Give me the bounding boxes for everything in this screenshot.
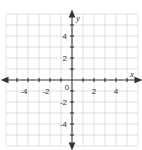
x-tick-label: 2 [92,87,97,96]
y-tick-label: 2 [63,54,68,63]
x-tick-label: 4 [114,87,119,96]
y-axis-label: y [75,13,80,23]
x-tick-label: -2 [42,87,50,96]
y-tick-label: -4 [60,120,68,129]
y-axis-up-arrow-icon [70,11,75,17]
x-tick-label: -4 [20,87,28,96]
origin-label: 0 [65,83,70,92]
x-axis-right-arrow-icon [135,78,141,83]
x-axis-label: x [129,69,134,79]
y-axis-down-arrow-icon [70,143,75,149]
y-tick-label: 4 [63,32,68,41]
y-tick-label: -2 [60,98,68,107]
x-axis-left-arrow-icon [2,78,8,83]
coordinate-plane: y x -4 -2 0 2 4 4 2 -2 -4 [0,0,142,150]
